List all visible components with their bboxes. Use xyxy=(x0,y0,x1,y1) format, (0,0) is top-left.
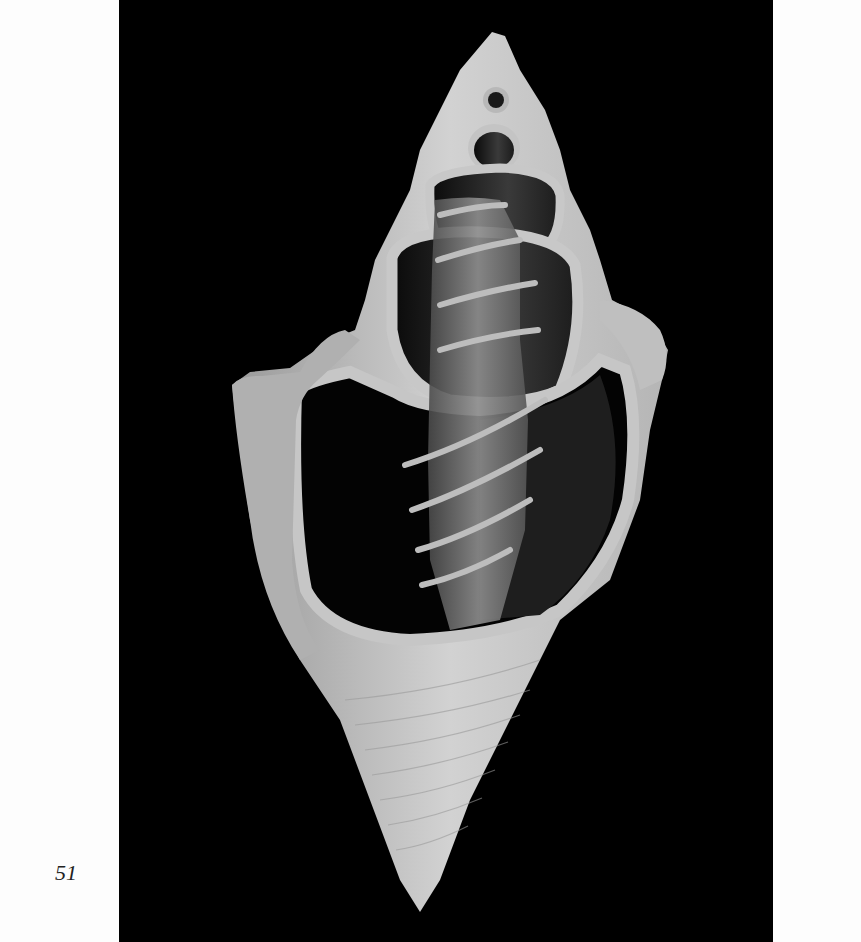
shell-illustration-icon xyxy=(119,0,773,942)
shell-photograph xyxy=(119,0,773,942)
page-number: 51 xyxy=(55,860,77,886)
